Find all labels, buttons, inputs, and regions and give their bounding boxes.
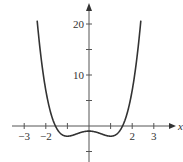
x-tick-label: 2 bbox=[129, 130, 135, 142]
x-axis-label: x bbox=[177, 120, 183, 132]
x-tick-label: 3 bbox=[151, 130, 157, 142]
function-plot: x−3−2231020 bbox=[0, 0, 183, 162]
y-axis-arrow-icon bbox=[86, 3, 92, 11]
x-tick-label: −2 bbox=[40, 130, 52, 142]
y-tick-label: 20 bbox=[73, 18, 85, 30]
x-tick-label: −3 bbox=[18, 130, 30, 142]
y-tick-label: 10 bbox=[73, 69, 85, 81]
x-axis-arrow-icon bbox=[169, 123, 176, 129]
